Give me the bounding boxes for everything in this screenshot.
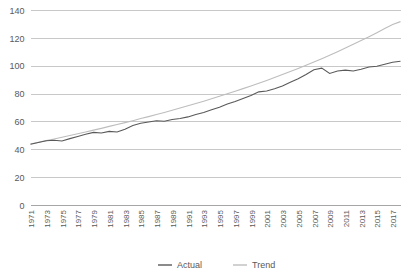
- y-tick-label: 140: [9, 6, 24, 16]
- y-tick-label: 60: [14, 117, 24, 127]
- x-tick-label: 2001: [263, 209, 272, 227]
- x-tick-label: 1995: [216, 209, 225, 227]
- y-tick-label: 120: [9, 34, 24, 44]
- x-tick-label: 1999: [248, 209, 257, 227]
- x-tick-label: 2009: [326, 209, 335, 227]
- x-tick-label: 1983: [122, 209, 131, 227]
- y-tick-label: 0: [19, 201, 24, 211]
- x-tick-label: 2013: [358, 209, 367, 227]
- x-tick-label: 1989: [169, 209, 178, 227]
- y-tick-label: 100: [9, 61, 24, 71]
- x-tick-label: 2005: [295, 209, 304, 227]
- plot-series: [31, 22, 401, 145]
- x-tick-label: 2017: [389, 209, 398, 227]
- x-tick-label: 1993: [200, 209, 209, 227]
- y-tick-label: 20: [14, 173, 24, 183]
- legend-label-actual[interactable]: Actual: [177, 260, 202, 270]
- y-axis-tick-labels: 020406080100120140: [9, 6, 24, 211]
- x-tick-label: 2011: [342, 209, 351, 227]
- x-tick-label: 1973: [43, 209, 52, 227]
- x-tick-label: 1975: [59, 209, 68, 227]
- x-tick-label: 1991: [185, 209, 194, 227]
- x-tick-label: 1977: [74, 209, 83, 227]
- x-tick-label: 1971: [27, 209, 36, 227]
- x-axis-tick-labels: 1971197319751977197919811983198519871989…: [27, 209, 398, 227]
- y-tick-label: 80: [14, 89, 24, 99]
- line-chart: 020406080100120140 197119731975197719791…: [0, 0, 409, 277]
- x-tick-label: 1997: [232, 209, 241, 227]
- series-line-trend: [31, 22, 401, 144]
- legend-label-trend[interactable]: Trend: [252, 260, 275, 270]
- y-tick-label: 40: [14, 145, 24, 155]
- x-tick-label: 2007: [311, 209, 320, 227]
- x-tick-label: 1987: [153, 209, 162, 227]
- x-tick-label: 2015: [373, 209, 382, 227]
- x-tick-label: 1979: [90, 209, 99, 227]
- x-tick-label: 1985: [137, 209, 146, 227]
- x-tick-label: 1981: [106, 209, 115, 227]
- x-tick-label: 2003: [279, 209, 288, 227]
- chart-legend: ActualTrend: [158, 260, 275, 270]
- chart-canvas: 020406080100120140 197119731975197719791…: [0, 0, 409, 277]
